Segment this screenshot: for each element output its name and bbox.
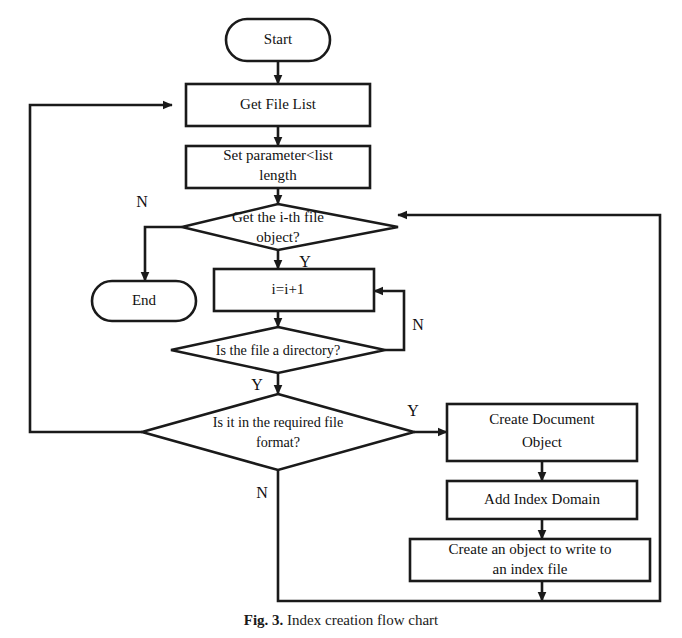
node-get-file-list-label: Get File List <box>240 96 317 112</box>
node-get-ith-file-label-line1: Get the i-th file <box>232 209 324 225</box>
node-create-document-object-label-line1: Create Document <box>489 411 595 427</box>
edge-left-rail-to-get-file-list <box>30 105 172 432</box>
edge-get-ith-file-no-to-end <box>145 227 182 281</box>
node-start-label: Start <box>264 31 293 47</box>
figure-caption: Fig. 3. Index creation flow chart <box>0 612 682 629</box>
node-add-index-domain-label: Add Index Domain <box>484 491 600 507</box>
node-get-ith-file-label-line2: object? <box>256 229 300 245</box>
node-create-write-object-label-line2: an index file <box>493 561 568 577</box>
branch-label-is-directory-yes: Y <box>251 376 263 393</box>
node-end-label: End <box>132 292 157 308</box>
node-create-write-object-label-line1: Create an object to write to <box>449 541 612 557</box>
branch-label-get-ith-file-yes: Y <box>299 253 311 270</box>
figure-caption-prefix: Fig. 3. <box>244 612 284 628</box>
node-is-directory-label: Is the file a directory? <box>216 342 340 358</box>
node-is-required-format-label-line1: Is it in the required file <box>213 414 343 430</box>
branch-label-get-ith-file-no: N <box>136 193 148 210</box>
node-set-parameter-label-line1: Set parameter<list <box>223 147 334 163</box>
node-create-document-object-label-line2: Object <box>522 434 563 450</box>
node-is-required-format <box>142 394 414 470</box>
flowchart-canvas: Start Get File List Set parameter<list l… <box>0 0 682 638</box>
branch-label-is-required-format-no: N <box>256 484 268 501</box>
branch-label-is-required-format-yes: Y <box>407 402 419 419</box>
branch-label-is-directory-no: N <box>412 316 424 333</box>
node-increment-label: i=i+1 <box>272 281 305 297</box>
node-set-parameter-label-line2: length <box>259 167 297 183</box>
node-is-required-format-label-line2: format? <box>256 434 300 450</box>
figure-caption-text: Index creation flow chart <box>287 612 438 628</box>
flowchart-figure: Start Get File List Set parameter<list l… <box>0 0 682 638</box>
edge-is-directory-no-to-increment <box>374 291 404 350</box>
